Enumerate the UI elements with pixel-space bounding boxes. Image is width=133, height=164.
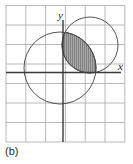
figure-container: y x (b) [0, 0, 133, 164]
geometry-figure: y x [0, 0, 133, 164]
x-axis-label: x [117, 60, 123, 72]
y-axis-label: y [57, 9, 63, 21]
figure-caption: (b) [5, 145, 18, 158]
